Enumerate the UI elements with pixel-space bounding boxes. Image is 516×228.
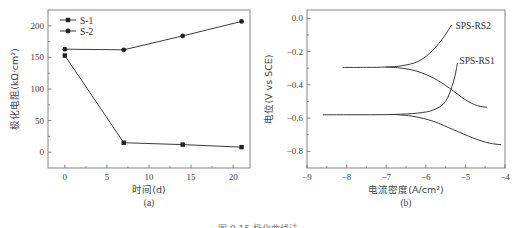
panel-label: (a) (144, 198, 155, 209)
y-tick-label: 50 (35, 116, 45, 126)
x-tick-label: −7 (381, 172, 391, 182)
figure-caption: 图 9.15 极化曲线法 (218, 223, 298, 228)
chart-panel-b: −9−8−7−6−5−4−0.8−0.6−0.4−0.20.0电流密度(A/cm… (263, 10, 510, 209)
y-tick-label: 0.0 (292, 13, 304, 23)
x-tick-label: −8 (342, 172, 352, 182)
y-axis-label: 电位(V vs SCE) (263, 54, 274, 123)
y-axis-label: 极化电阻(kΩ·cm²) (9, 48, 20, 129)
x-tick-label: −9 (302, 172, 312, 182)
polarization-curve (386, 67, 487, 107)
data-point-circle (239, 19, 244, 24)
annotation-sps-rs1: SPS-RS1 (459, 56, 495, 66)
annotation-sps-rs2: SPS-RS2 (456, 21, 492, 31)
legend-label: S-1 (80, 16, 93, 26)
x-tick-label: −4 (500, 172, 510, 182)
y-tick-label: 150 (31, 52, 45, 62)
y-tick-label: −0.8 (287, 146, 304, 156)
y-tick-label: 100 (31, 84, 45, 94)
y-tick-label: −0.2 (287, 47, 303, 57)
data-point-square (239, 145, 243, 149)
x-tick-label: 0 (63, 172, 68, 182)
y-tick-label: −0.4 (287, 80, 304, 90)
legend-label: S-2 (80, 27, 93, 37)
data-point-circle (180, 34, 185, 39)
panel-label: (b) (400, 198, 411, 209)
x-axis-label: 时间(d) (132, 184, 165, 195)
polarization-curve (323, 63, 458, 115)
x-tick-label: 10 (145, 172, 155, 182)
x-tick-label: −5 (461, 172, 471, 182)
data-point-square (180, 142, 184, 146)
y-tick-label: 200 (31, 21, 45, 31)
y-tick-label: −0.6 (287, 113, 304, 123)
plot-frame (307, 10, 505, 168)
x-tick-label: 20 (229, 172, 239, 182)
legend-marker-circle (66, 29, 71, 34)
data-point-circle (121, 47, 126, 52)
x-tick-label: 15 (187, 172, 197, 182)
legend-marker-square (66, 18, 70, 22)
plot-frame (48, 10, 250, 168)
x-axis-label: 电流密度(A/cm²) (368, 184, 443, 195)
polarization-curve (343, 25, 452, 67)
y-tick-label: 0 (40, 147, 45, 157)
series-line-s-1 (65, 56, 242, 148)
data-point-square (122, 141, 126, 145)
chart-panel-a: 05101520050100150200时间(d)极化电阻(kΩ·cm²)(a)… (9, 10, 250, 209)
polarization-curve (394, 114, 501, 144)
data-point-square (63, 53, 67, 57)
x-tick-label: −6 (421, 172, 431, 182)
figure: 05101520050100150200时间(d)极化电阻(kΩ·cm²)(a)… (0, 0, 516, 228)
data-point-circle (62, 47, 67, 52)
x-tick-label: 5 (105, 172, 110, 182)
